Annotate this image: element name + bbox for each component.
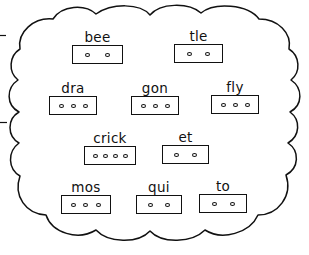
word-card-tle[interactable]: tle [174,29,223,63]
word-card-label: bee [84,30,110,44]
box-dot-icon [230,202,235,206]
word-card-mos[interactable]: mos [61,180,111,214]
box-dot-icon [221,103,226,107]
word-card-label: qui [148,180,170,194]
word-card-box[interactable] [84,146,136,165]
box-dot-icon [59,104,64,108]
box-dot-icon [96,203,101,207]
word-card-box[interactable] [49,96,97,115]
word-card-dra[interactable]: dra [49,81,97,115]
box-dot-icon [123,154,128,158]
box-dot-icon [165,203,170,207]
box-dot-icon [233,103,238,107]
word-card-box[interactable] [131,96,179,115]
word-card-bee[interactable]: bee [72,30,123,64]
box-dot-icon [165,104,170,108]
word-card-label: dra [61,81,84,95]
word-card-box[interactable] [199,194,247,213]
word-card-box[interactable] [61,195,111,214]
box-dot-icon [105,53,110,57]
box-dot-icon [103,154,108,158]
box-dot-icon [245,103,250,107]
box-dot-icon [153,104,158,108]
word-card-label: tle [189,29,207,43]
box-dot-icon [141,104,146,108]
box-dot-icon [212,202,217,206]
box-dot-icon [85,53,90,57]
worksheet-canvas: beetledragonflycricketmosquito [0,0,309,255]
word-card-fly[interactable]: fly [211,80,259,114]
box-dot-icon [93,154,98,158]
box-dot-icon [192,153,197,157]
word-card-et[interactable]: et [162,130,209,164]
word-card-label: gon [142,81,168,95]
word-card-label: et [178,130,192,144]
box-dot-icon [187,52,192,56]
word-cards-layer: beetledragonflycricketmosquito [0,0,309,255]
word-card-box[interactable] [136,195,182,214]
word-card-crick[interactable]: crick [84,131,136,165]
word-card-label: mos [71,180,100,194]
box-dot-icon [113,154,118,158]
box-dot-icon [174,153,179,157]
word-card-box[interactable] [162,145,209,164]
word-card-box[interactable] [211,95,259,114]
word-card-box[interactable] [174,44,223,63]
word-card-to[interactable]: to [199,179,247,213]
word-card-qui[interactable]: qui [136,180,182,214]
box-dot-icon [148,203,153,207]
word-card-box[interactable] [72,45,123,64]
box-dot-icon [205,52,210,56]
word-card-label: crick [93,131,126,145]
word-card-gon[interactable]: gon [131,81,179,115]
box-dot-icon [71,203,76,207]
box-dot-icon [71,104,76,108]
word-card-label: to [216,179,230,193]
box-dot-icon [83,104,88,108]
word-card-label: fly [226,80,243,94]
box-dot-icon [83,203,88,207]
